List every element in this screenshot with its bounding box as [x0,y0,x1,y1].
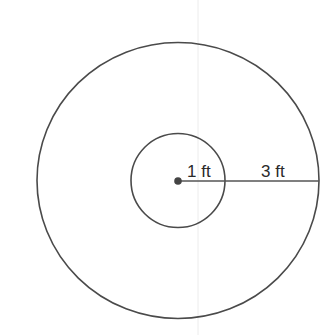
inner-radius-label: 1 ft [187,162,211,181]
center-point [174,177,182,185]
outer-radius-label: 3 ft [261,162,285,181]
concentric-circles-diagram: 1 ft 3 ft [0,0,329,335]
